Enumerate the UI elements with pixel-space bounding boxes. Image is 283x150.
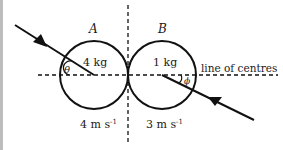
velocity-b-arrowhead-icon [208, 97, 222, 106]
sphere-b-label: B [157, 22, 167, 36]
diagram-canvas: A B 4 kg 1 kg θ ϕ line of centres 4 m s-… [0, 0, 283, 150]
line-of-centres-label: line of centres [201, 62, 277, 74]
velocity-b-line [162, 75, 254, 120]
sphere-a-speed: 4 m s-1 [80, 118, 117, 131]
collision-diagram: A B 4 kg 1 kg θ ϕ line of centres 4 m s-… [0, 0, 283, 150]
sphere-b-speed-value: 3 m s [146, 118, 176, 131]
sphere-a-speed-exponent: -1 [110, 118, 117, 126]
phi-label: ϕ [184, 76, 190, 86]
velocity-a-arrowhead-icon [33, 34, 47, 47]
sphere-a-speed-value: 4 m s [80, 118, 110, 131]
sphere-b-speed-exponent: -1 [176, 118, 183, 126]
sphere-b-mass: 1 kg [153, 56, 177, 69]
phi-angle-arc [179, 75, 182, 83]
sphere-b-speed: 3 m s-1 [146, 118, 183, 131]
sphere-a-label: A [88, 22, 98, 36]
sphere-a-mass: 4 kg [83, 56, 107, 69]
theta-label: θ [64, 64, 70, 75]
